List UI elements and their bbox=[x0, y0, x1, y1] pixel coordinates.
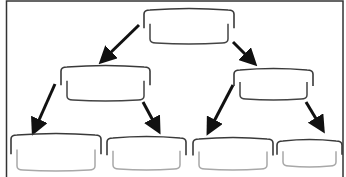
bracket-top bbox=[277, 140, 342, 155]
bracket-bottom bbox=[17, 150, 95, 171]
bracket-bottom bbox=[113, 151, 180, 170]
arrow-left-to-left-right bbox=[143, 102, 157, 128]
node-box-root bbox=[144, 9, 234, 45]
bracket-bottom bbox=[199, 151, 267, 170]
bracket-top bbox=[144, 9, 234, 29]
arrow-right-to-right-left bbox=[210, 85, 233, 129]
bracket-top bbox=[61, 66, 150, 86]
edges bbox=[35, 25, 321, 129]
arrow-left-to-left-left bbox=[35, 84, 55, 129]
arrow-root-to-right bbox=[233, 42, 252, 61]
node-box-right bbox=[234, 69, 313, 101]
bracket-bottom bbox=[283, 151, 336, 167]
bracket-bottom bbox=[240, 82, 307, 100]
bracket-bottom bbox=[150, 24, 228, 44]
diagram-frame bbox=[0, 0, 346, 177]
outer-border bbox=[7, 1, 344, 177]
bracket-top bbox=[234, 69, 313, 87]
nodes bbox=[11, 9, 342, 172]
node-box-right-right bbox=[277, 140, 342, 168]
arrow-root-to-left bbox=[104, 25, 139, 59]
node-box-right-left bbox=[193, 138, 273, 171]
node-box-left-left bbox=[11, 134, 101, 172]
node-box-left bbox=[61, 66, 150, 102]
arrow-right-to-right-right bbox=[306, 102, 321, 127]
bracket-top bbox=[107, 137, 186, 156]
node-box-left-right bbox=[107, 137, 186, 171]
bracket-bottom bbox=[67, 81, 144, 101]
bracket-top bbox=[11, 134, 101, 155]
bracket-top bbox=[193, 138, 273, 156]
tree-diagram bbox=[0, 0, 346, 177]
